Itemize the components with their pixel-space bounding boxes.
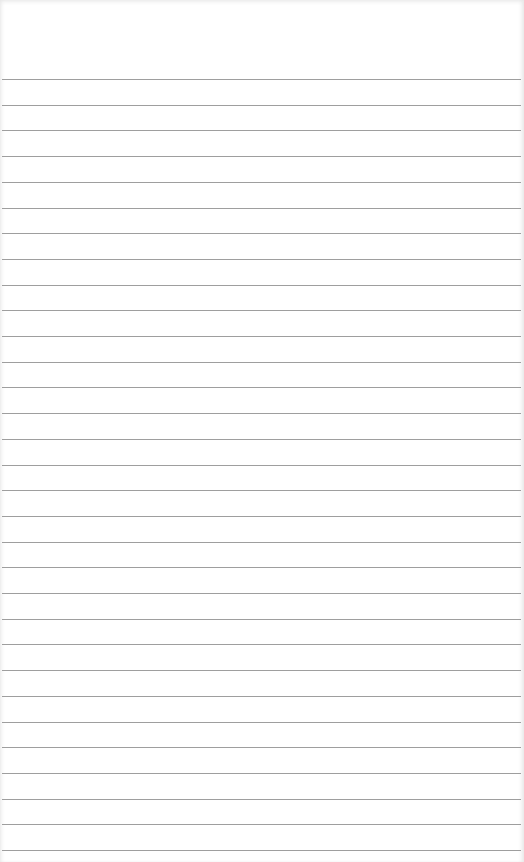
ruled-line bbox=[2, 644, 521, 645]
ruled-paper-sheet bbox=[0, 0, 524, 862]
ruled-line bbox=[2, 362, 521, 363]
ruled-line bbox=[2, 439, 521, 440]
ruled-line bbox=[2, 670, 521, 671]
ruled-line bbox=[2, 259, 521, 260]
ruled-line bbox=[2, 619, 521, 620]
ruled-line bbox=[2, 182, 521, 183]
ruled-line bbox=[2, 490, 521, 491]
ruled-line bbox=[2, 310, 521, 311]
ruled-line bbox=[2, 567, 521, 568]
ruled-line bbox=[2, 593, 521, 594]
ruled-line bbox=[2, 233, 521, 234]
ruled-line bbox=[2, 850, 521, 851]
ruled-line bbox=[2, 336, 521, 337]
ruled-line bbox=[2, 773, 521, 774]
ruled-line bbox=[2, 156, 521, 157]
ruled-line bbox=[2, 542, 521, 543]
ruled-line bbox=[2, 696, 521, 697]
ruled-line bbox=[2, 722, 521, 723]
ruled-line bbox=[2, 285, 521, 286]
ruled-line bbox=[2, 465, 521, 466]
ruled-line bbox=[2, 413, 521, 414]
ruled-line bbox=[2, 387, 521, 388]
ruled-line bbox=[2, 516, 521, 517]
ruled-line bbox=[2, 130, 521, 131]
ruled-line bbox=[2, 208, 521, 209]
ruled-line bbox=[2, 799, 521, 800]
ruled-line bbox=[2, 79, 521, 80]
ruled-line bbox=[2, 747, 521, 748]
ruled-line bbox=[2, 105, 521, 106]
ruled-line bbox=[2, 824, 521, 825]
